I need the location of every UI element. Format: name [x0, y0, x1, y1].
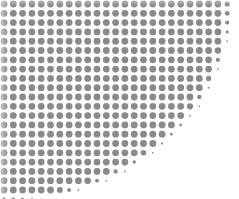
halftone-graphic	[0, 0, 239, 199]
halftone-dot-pattern	[0, 0, 239, 199]
